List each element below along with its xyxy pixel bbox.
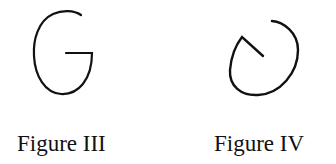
figure-iv-label: Figure IV — [214, 132, 304, 155]
figure-iii-label: Figure III — [17, 132, 106, 155]
figure-iii-shape — [34, 11, 92, 94]
figure-iv-shape — [230, 21, 298, 95]
